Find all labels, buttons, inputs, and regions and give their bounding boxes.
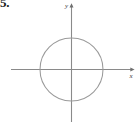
coordinate-plot: y x bbox=[0, 0, 135, 130]
y-axis-arrowhead bbox=[70, 3, 74, 7]
figure-container: 5. y x bbox=[0, 0, 135, 130]
x-axis-label: x bbox=[128, 72, 133, 80]
y-axis-label: y bbox=[64, 2, 69, 10]
